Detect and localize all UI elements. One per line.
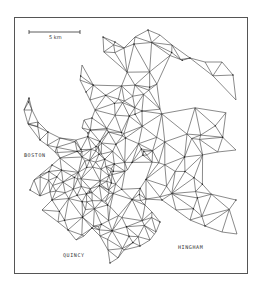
place-label-boston: BOSTON — [24, 152, 46, 158]
place-label-quincy: QUINCY — [63, 252, 85, 258]
mesh-figure: 5 km BOSTON QUINCY HINGHAM — [0, 0, 261, 293]
scale-bar-label: 5 km — [49, 34, 62, 40]
place-label-hingham: HINGHAM — [178, 244, 203, 250]
triangular-mesh — [0, 0, 261, 293]
